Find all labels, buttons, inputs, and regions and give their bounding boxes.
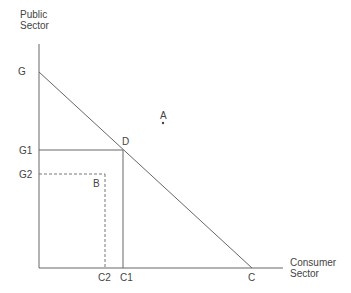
point-a-dot	[162, 122, 164, 124]
x-axis-title-line1: Consumer	[290, 257, 336, 268]
x-axis-title-line2: Sector	[290, 268, 336, 279]
label-d: D	[122, 136, 129, 147]
y-axis-title-line2: Sector	[20, 20, 49, 31]
label-g2: G2	[19, 169, 32, 180]
label-c: C	[248, 272, 255, 283]
label-g1: G1	[19, 145, 32, 156]
frontier-line-g-to-c	[39, 72, 252, 268]
label-g: G	[18, 66, 26, 77]
production-possibility-diagram	[0, 0, 351, 293]
label-a: A	[160, 110, 167, 121]
x-axis-title: Consumer Sector	[290, 257, 336, 279]
label-c2: C2	[98, 272, 111, 283]
y-axis-title: Public Sector	[20, 9, 49, 31]
label-c1: C1	[120, 272, 133, 283]
label-b: B	[93, 178, 100, 189]
y-axis-title-line1: Public	[20, 9, 49, 20]
